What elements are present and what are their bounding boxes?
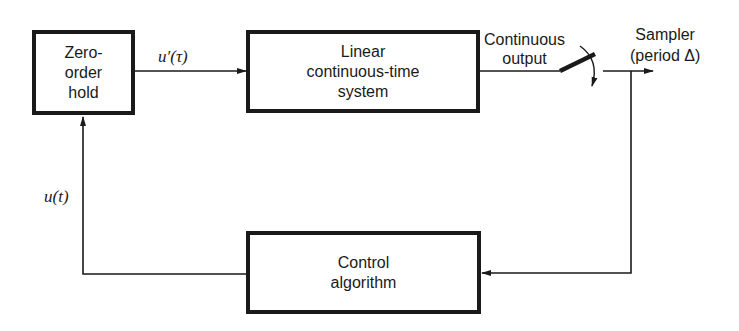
u-prime-tau-label: u′(τ) [158,48,188,66]
feedback-left-path [83,117,246,274]
feedback-right-path [482,71,631,273]
u-t-label: u(t) [44,188,69,206]
zero-order-hold-block: Zero- order hold [32,30,135,115]
sampler-rotation-arc [580,46,594,86]
linear-system-block: Linear continuous-time system [246,30,480,113]
linear-system-label: Linear continuous-time system [307,42,420,102]
control-algorithm-label: Control algorithm [331,253,397,293]
control-algorithm-block: Control algorithm [246,231,481,314]
zero-order-hold-label: Zero- order hold [64,43,102,103]
continuous-output-label: Continuous output [484,30,565,68]
sampler-label: Sampler (period Δ) [630,24,700,66]
